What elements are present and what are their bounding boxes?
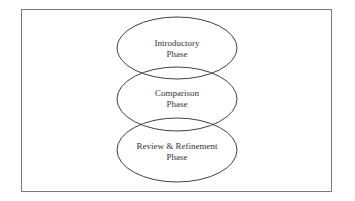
phase-subtitle: Phase <box>117 152 237 163</box>
phase-subtitle: Phase <box>117 99 237 110</box>
phase-title: Introductory <box>117 38 237 49</box>
review-refinement-phase-label: Review & Refinement Phase <box>117 141 237 162</box>
phase-subtitle: Phase <box>117 49 237 60</box>
comparison-phase-label: Comparison Phase <box>117 88 237 109</box>
phase-title: Comparison <box>117 88 237 99</box>
phase-title: Review & Refinement <box>117 141 237 152</box>
introductory-phase-label: Introductory Phase <box>117 38 237 59</box>
